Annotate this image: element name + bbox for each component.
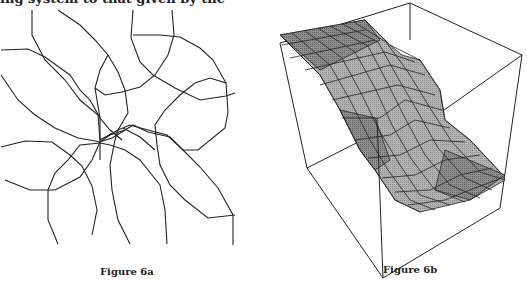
figure-6b-caption: Figure 6b: [383, 264, 437, 275]
figure-6b: [270, 0, 527, 283]
figure-6a: [0, 0, 260, 250]
figure-6b-surface-plot: [270, 0, 527, 283]
figure-6a-drawing: [0, 0, 260, 250]
figure-6a-caption: Figure 6a: [100, 266, 154, 277]
